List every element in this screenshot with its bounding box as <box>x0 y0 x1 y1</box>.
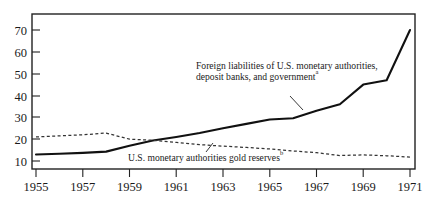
annotation-liabilities-line1: Foreign liabilities of U.S. monetary aut… <box>196 60 378 71</box>
ytick-label-10: 10 <box>15 155 28 169</box>
series-line-foreign-liabilities <box>36 30 410 154</box>
xtick-label-1961: 1961 <box>164 180 189 194</box>
xtick-label-1955: 1955 <box>24 180 49 194</box>
annotation-gold-line1: U.S. monetary authorities gold reservesb <box>128 149 284 164</box>
ytick-label-60: 60 <box>15 46 28 60</box>
ytick-label-20: 20 <box>15 133 28 147</box>
chart-canvas: 70 60 50 40 30 20 10 1955 1957 1959 1961 <box>0 0 428 205</box>
xtick-label-1969: 1969 <box>351 180 376 194</box>
y-axis-ticks <box>32 30 40 161</box>
xtick-label-1971: 1971 <box>398 180 423 194</box>
leader-line-liabilities <box>290 96 303 110</box>
ytick-label-50: 50 <box>15 68 28 82</box>
plot-frame <box>32 14 415 169</box>
annotation-foreign-liabilities: Foreign liabilities of U.S. monetary aut… <box>196 60 378 82</box>
ytick-label-30: 30 <box>15 111 28 125</box>
annotation-gold-reserves: U.S. monetary authorities gold reservesb <box>128 149 284 164</box>
ytick-label-40: 40 <box>15 90 28 104</box>
xtick-label-1965: 1965 <box>257 180 282 194</box>
y-axis-tick-labels: 70 60 50 40 30 20 10 <box>15 24 28 169</box>
xtick-label-1967: 1967 <box>304 180 329 194</box>
leader-line-gold-reserves <box>206 143 213 152</box>
ytick-label-70: 70 <box>15 24 28 38</box>
xtick-label-1957: 1957 <box>70 180 95 194</box>
x-axis-ticks <box>36 169 410 177</box>
x-axis-tick-labels: 1955 1957 1959 1961 1963 1965 1967 1969 … <box>24 180 423 194</box>
xtick-label-1963: 1963 <box>211 180 236 194</box>
xtick-label-1959: 1959 <box>117 180 142 194</box>
chart-figure: 70 60 50 40 30 20 10 1955 1957 1959 1961 <box>0 0 428 205</box>
